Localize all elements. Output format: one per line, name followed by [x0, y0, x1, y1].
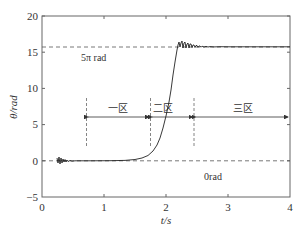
xtick-2: 2: [163, 201, 169, 213]
ref-label-5pi: 5π rad: [81, 52, 106, 63]
y-axis-ticks: [42, 16, 290, 161]
ytick-15: 15: [27, 46, 39, 58]
ytick-5: 5: [33, 118, 39, 130]
region-2-label: 二区: [153, 103, 173, 114]
y-tick-labels: 20 15 10 5 0 −5: [26, 10, 38, 203]
xtick-3: 3: [225, 201, 231, 213]
chart: 20 15 10 5 0 −5 0 1 2 3 4 t/s θ/rad 5π r…: [0, 0, 300, 229]
xtick-1: 1: [101, 201, 107, 213]
region-labels: 一区 二区 三区: [108, 103, 253, 114]
ref-label-zero: 0rad: [204, 171, 222, 182]
region-boundaries: [87, 98, 195, 147]
ytick-10: 10: [27, 82, 39, 94]
region-1-label: 一区: [108, 103, 128, 114]
x-tick-labels: 0 1 2 3 4: [39, 201, 293, 213]
ytick-0: 0: [33, 155, 39, 167]
region-3-label: 三区: [233, 103, 253, 114]
xtick-4: 4: [287, 201, 293, 213]
xtick-0: 0: [39, 201, 45, 213]
y-axis-label: θ/rad: [7, 95, 19, 119]
ytick-20: 20: [27, 10, 39, 22]
x-axis-label: t/s: [161, 214, 171, 226]
ytick-neg5: −5: [26, 191, 38, 203]
